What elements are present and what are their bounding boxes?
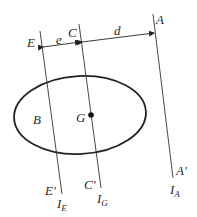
label-E-prime: E' — [45, 184, 56, 197]
label-I-G: IG — [97, 192, 108, 208]
label-I-G-subscript: G — [101, 198, 108, 208]
label-E: E — [27, 36, 35, 49]
label-e: e — [56, 33, 62, 46]
label-B: B — [33, 113, 41, 126]
label-I-E: IE — [57, 197, 67, 213]
label-d: d — [114, 24, 121, 37]
axis-A-line — [153, 14, 173, 178]
label-C: C — [68, 26, 77, 39]
label-A-prime: A' — [176, 164, 187, 177]
label-I-A-subscript: A — [174, 189, 180, 199]
label-A: A — [156, 13, 164, 26]
axis-E-line — [40, 31, 62, 194]
parallel-axis-diagram: E e C d A B G E' C' A' IE IG IA — [0, 0, 197, 217]
label-I-E-subscript: E — [61, 203, 67, 213]
label-C-prime: C' — [84, 178, 95, 191]
label-I-A: IA — [170, 183, 180, 199]
axis-C-line — [79, 24, 101, 188]
diagram-drawing — [0, 0, 197, 217]
center-of-mass-dot — [88, 112, 94, 118]
label-G: G — [76, 111, 85, 124]
